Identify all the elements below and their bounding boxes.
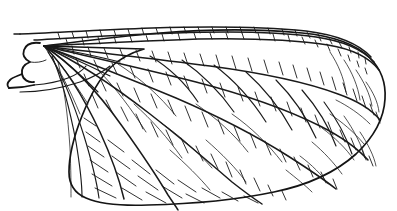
base-notch	[30, 60, 46, 62]
wing-venation-drawing	[0, 0, 397, 211]
basal-hook	[9, 85, 34, 88]
wing-figure	[0, 0, 397, 211]
axillary-sclerite-lower	[8, 74, 22, 88]
